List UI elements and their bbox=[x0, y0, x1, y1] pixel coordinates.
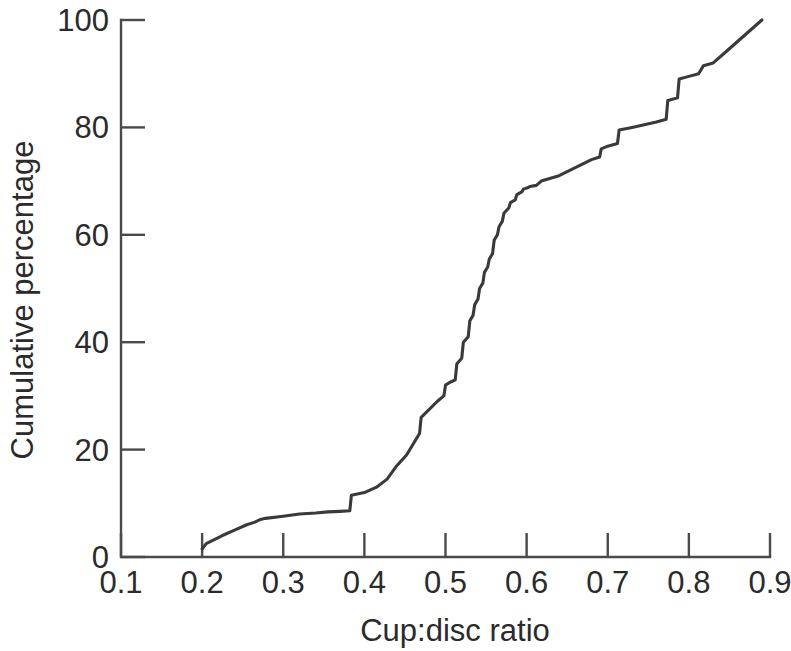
y-axis-title: Cumulative percentage bbox=[5, 141, 40, 460]
x-tick-label: 0.7 bbox=[586, 565, 629, 600]
y-tick-label: 100 bbox=[57, 3, 109, 38]
chart-figure: 020406080100 0.10.20.30.40.50.60.70.80.9… bbox=[0, 0, 791, 651]
x-axis-tick-labels: 0.10.20.30.40.50.60.70.80.9 bbox=[99, 565, 791, 600]
y-tick-label: 40 bbox=[75, 325, 109, 360]
x-axis-title: Cup:disc ratio bbox=[360, 613, 550, 648]
x-tick-label: 0.8 bbox=[667, 565, 710, 600]
x-tick-label: 0.9 bbox=[748, 565, 791, 600]
x-tick-label: 0.5 bbox=[424, 565, 467, 600]
x-tick-label: 0.2 bbox=[181, 565, 224, 600]
x-tick-label: 0.4 bbox=[343, 565, 386, 600]
y-tick-label: 80 bbox=[75, 110, 109, 145]
x-tick-label: 0.6 bbox=[505, 565, 548, 600]
x-tick-label: 0.1 bbox=[99, 565, 142, 600]
y-tick-label: 20 bbox=[75, 433, 109, 468]
y-tick-label: 60 bbox=[75, 218, 109, 253]
x-tick-label: 0.3 bbox=[262, 565, 305, 600]
chart-background bbox=[0, 0, 791, 651]
cumulative-percentage-line-chart: 020406080100 0.10.20.30.40.50.60.70.80.9… bbox=[0, 0, 791, 651]
